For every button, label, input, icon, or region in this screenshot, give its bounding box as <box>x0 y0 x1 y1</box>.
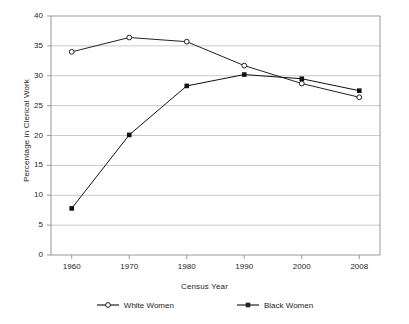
x-tick-label: 1990 <box>221 262 267 271</box>
data-point <box>357 88 362 93</box>
y-tick-label: 10 <box>17 190 43 199</box>
x-axis-tick-marks <box>72 255 360 259</box>
y-axis-tick-marks <box>47 16 51 255</box>
y-tick-label: 20 <box>17 131 43 140</box>
legend-label: White Women <box>124 301 174 310</box>
data-point <box>127 133 132 138</box>
y-tick-label: 0 <box>17 250 43 259</box>
data-point <box>299 81 304 86</box>
data-point <box>242 63 247 68</box>
x-axis-title: Census Year <box>0 282 409 291</box>
data-point <box>69 206 74 211</box>
data-point <box>69 49 74 54</box>
legend-item[interactable]: White Women <box>96 300 174 310</box>
data-point <box>127 35 132 40</box>
chart-figure: Percentage in Clerical Work Census Year … <box>0 0 409 324</box>
legend-item[interactable]: Black Women <box>236 300 313 310</box>
chart-legend: White WomenBlack Women <box>0 300 409 310</box>
x-tick-label: 1980 <box>164 262 210 271</box>
data-point <box>184 39 189 44</box>
x-tick-label: 2008 <box>336 262 382 271</box>
open-circle-marker-icon <box>96 300 120 310</box>
y-tick-label: 40 <box>17 11 43 20</box>
line-chart-plot <box>0 0 409 324</box>
data-point <box>299 76 304 81</box>
legend-label: Black Women <box>264 301 313 310</box>
y-tick-label: 5 <box>17 220 43 229</box>
filled-square-marker-icon <box>236 300 260 310</box>
x-tick-label: 2000 <box>279 262 325 271</box>
y-tick-label: 30 <box>17 71 43 80</box>
y-tick-label: 25 <box>17 101 43 110</box>
x-tick-label: 1960 <box>49 262 95 271</box>
y-tick-label: 35 <box>17 41 43 50</box>
data-point <box>357 95 362 100</box>
x-tick-label: 1970 <box>106 262 152 271</box>
data-point <box>184 84 189 89</box>
y-tick-label: 15 <box>17 160 43 169</box>
data-point <box>242 72 247 77</box>
